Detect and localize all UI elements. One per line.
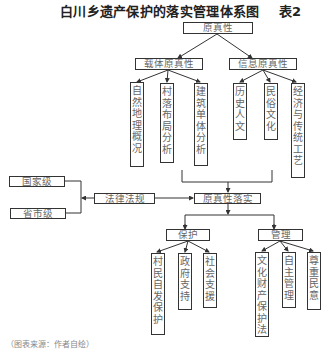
economy-crafts-node: 经济与传统工艺 [291,83,305,178]
villager-protection-node: 村民自发保护 [151,253,165,335]
management-node: 管理 [258,229,303,241]
self-management-node: 自主管理 [282,252,296,308]
carrier-authenticity-node: 载体原真性 [135,58,203,70]
root-node-authenticity: 原真性 [183,22,253,34]
source-note: （图表来源：作者自绘） [6,338,94,349]
respect-public-opinion-node: 尊重民意 [307,252,321,310]
government-support-node: 政府支持 [178,253,192,310]
village-layout-node: 村落布局分析 [160,83,174,163]
cultural-property-law-node: 文化财产保护法 [255,252,269,337]
building-analysis-node: 建筑单体分析 [194,83,208,166]
implementation-node: 原真性落实 [194,193,261,204]
natural-geography-node: 自然地理概况 [130,82,144,167]
national-level-node: 国家级 [9,176,65,187]
folk-culture-node: 民俗文化 [264,83,278,140]
laws-regulations-node: 法律法规 [94,193,155,204]
provincial-level-node: 省市级 [10,208,66,219]
social-support-node: 社会支援 [203,253,217,308]
history-culture-node: 历史人文 [233,83,247,140]
protection-node: 保护 [166,229,210,241]
information-authenticity-node: 信息原真性 [229,58,297,70]
